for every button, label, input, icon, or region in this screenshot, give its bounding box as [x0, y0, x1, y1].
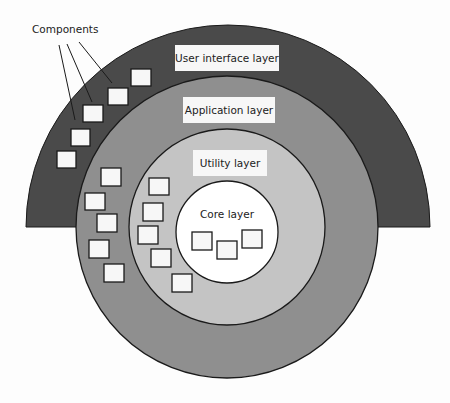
core-component-box: [217, 241, 237, 259]
utility-layer-label: Utility layer: [193, 150, 267, 176]
utility-component-box: [143, 203, 163, 221]
application-component-box: [89, 240, 109, 258]
application-component-box: [101, 168, 121, 186]
utility-component-box: [149, 178, 169, 195]
core-layer-circle: [176, 181, 278, 283]
application-component-box: [104, 264, 124, 282]
core-layer-label: Core layer: [200, 208, 255, 220]
ui-component-box: [71, 129, 90, 146]
svg-text:User interface layer: User interface layer: [175, 52, 279, 64]
svg-text:Application layer: Application layer: [185, 104, 274, 116]
utility-component-box: [172, 274, 192, 292]
core-component-box: [192, 232, 212, 250]
application-component-box: [85, 193, 105, 210]
ui-component-box: [83, 105, 103, 122]
application-component-box: [97, 214, 117, 232]
components-callout-label: Components: [32, 23, 98, 35]
application-layer-label: Application layer: [183, 97, 275, 123]
utility-component-box: [151, 249, 171, 267]
svg-text:Utility layer: Utility layer: [200, 157, 261, 169]
utility-component-box: [138, 226, 158, 244]
ui-component-box: [108, 88, 128, 105]
ui-component-box: [131, 69, 151, 86]
layered-architecture-diagram: User interface layer Application layer U…: [0, 0, 450, 403]
core-component-box: [242, 230, 262, 248]
ui-layer-label: User interface layer: [175, 45, 280, 71]
ui-component-box: [57, 151, 76, 168]
